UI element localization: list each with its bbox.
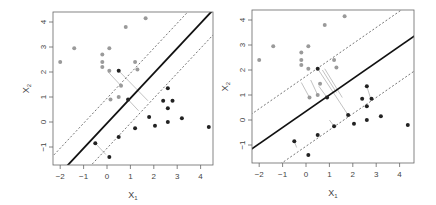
x-tick-label: 4 xyxy=(198,172,203,181)
x-tick-label: 1 xyxy=(327,170,332,179)
point-class-black xyxy=(147,115,151,119)
x-tick-label: 3 xyxy=(175,172,180,181)
point-class-gray xyxy=(135,68,139,72)
point-class-gray xyxy=(109,98,113,102)
point-class-black xyxy=(316,133,320,137)
point-class-black xyxy=(207,125,211,129)
point-class-black xyxy=(107,155,111,159)
y-axis-label: X2 xyxy=(21,83,32,93)
point-class-black xyxy=(292,139,296,143)
point-class-gray xyxy=(334,66,338,70)
panel-1: −2−101234−101234X1X2 xyxy=(21,0,236,205)
x-tick-label: −2 xyxy=(255,170,265,179)
point-class-gray xyxy=(119,84,123,88)
point-class-black xyxy=(166,120,170,124)
point-class-gray xyxy=(107,46,111,50)
point-class-black xyxy=(153,124,157,128)
x-tick-label: 2 xyxy=(351,170,356,179)
y-tick-label: 4 xyxy=(238,17,247,22)
point-class-gray xyxy=(316,93,320,97)
point-class-black xyxy=(360,97,364,101)
plot-area xyxy=(231,0,435,198)
point-class-black xyxy=(370,97,374,101)
point-class-gray xyxy=(332,58,336,62)
point-class-black xyxy=(352,122,356,126)
point-class-black xyxy=(166,106,170,110)
point-class-gray xyxy=(133,60,137,64)
point-class-gray xyxy=(124,25,128,29)
x-tick-label: 1 xyxy=(128,172,133,181)
panel-2: −2−101234−101234X1X2 xyxy=(220,0,435,199)
point-class-black xyxy=(180,116,184,120)
y-tick-label: 3 xyxy=(238,42,247,47)
point-class-gray xyxy=(117,95,121,99)
point-class-black xyxy=(166,86,170,90)
hyperplane xyxy=(231,22,435,163)
point-class-gray xyxy=(308,96,312,100)
point-class-gray xyxy=(144,16,148,20)
point-class-black xyxy=(365,104,369,108)
slack-segment xyxy=(319,86,327,97)
point-class-gray xyxy=(299,58,303,62)
point-class-black xyxy=(117,69,121,73)
slack-segment xyxy=(108,72,121,86)
y-tick-label: 0 xyxy=(39,119,48,124)
x-tick-label: −1 xyxy=(278,170,288,179)
y-tick-label: 2 xyxy=(39,69,48,74)
point-class-black xyxy=(332,124,336,128)
y-tick-label: 4 xyxy=(39,19,48,24)
point-class-gray xyxy=(306,67,310,71)
y-tick-label: 2 xyxy=(238,67,247,72)
point-class-black xyxy=(117,135,121,139)
x-tick-label: 2 xyxy=(152,172,157,181)
point-class-gray xyxy=(100,53,104,57)
point-class-gray xyxy=(107,69,111,73)
point-class-gray xyxy=(72,46,76,50)
point-class-black xyxy=(126,98,130,102)
x-axis-label: X1 xyxy=(328,188,338,199)
y-tick-label: −1 xyxy=(39,142,48,152)
point-class-black xyxy=(133,126,137,130)
x-tick-label: 4 xyxy=(397,170,402,179)
y-tick-label: 1 xyxy=(238,92,247,97)
point-class-gray xyxy=(100,65,104,69)
point-class-black xyxy=(346,113,350,117)
y-tick-label: 1 xyxy=(39,94,48,99)
point-class-gray xyxy=(343,14,347,18)
point-class-black xyxy=(161,99,165,103)
y-axis-label: X2 xyxy=(220,81,231,91)
point-class-black xyxy=(316,67,320,71)
point-class-gray xyxy=(271,44,275,48)
x-tick-label: 3 xyxy=(374,170,379,179)
point-class-black xyxy=(325,96,329,100)
point-class-black xyxy=(365,118,369,122)
x-axis-label: X1 xyxy=(128,190,138,201)
y-tick-label: 0 xyxy=(238,117,247,122)
point-class-gray xyxy=(58,60,62,64)
point-class-gray xyxy=(299,51,303,55)
slack-segment xyxy=(95,143,106,154)
slack-segment xyxy=(301,83,309,98)
point-class-gray xyxy=(306,44,310,48)
point-class-black xyxy=(306,153,310,157)
slack-segment xyxy=(322,70,336,93)
y-tick-label: 3 xyxy=(39,44,48,49)
point-class-gray xyxy=(257,58,261,62)
point-class-gray xyxy=(323,23,327,27)
point-class-gray xyxy=(318,82,322,86)
x-tick-label: −2 xyxy=(56,172,66,181)
point-class-gray xyxy=(100,60,104,64)
slack-segment xyxy=(311,80,318,95)
point-class-black xyxy=(171,99,175,103)
point-class-black xyxy=(406,123,410,127)
point-class-black xyxy=(379,114,383,118)
figure: −2−101234−101234X1X2−2−101234−101234X1X2 xyxy=(0,0,436,205)
margin-upper xyxy=(32,0,236,178)
point-class-gray xyxy=(299,63,303,67)
x-tick-label: −1 xyxy=(79,172,89,181)
point-class-black xyxy=(365,84,369,88)
x-tick-label: 0 xyxy=(105,172,110,181)
point-class-black xyxy=(93,141,97,145)
y-tick-label: −1 xyxy=(238,140,247,150)
slack-segment xyxy=(128,100,139,111)
